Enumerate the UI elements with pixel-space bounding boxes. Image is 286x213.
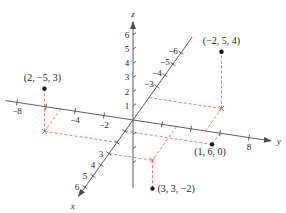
point-label: (2, −5, 3) — [24, 72, 61, 84]
x-tick-label: −3 — [144, 79, 154, 89]
point-marker — [150, 186, 154, 190]
y-tick-label: −4 — [70, 115, 80, 125]
x-tick — [155, 85, 160, 88]
guide-y-to-foot — [153, 127, 177, 161]
x-tick-label: −6 — [168, 46, 178, 56]
y-axis — [5, 101, 270, 141]
guide-y-to-foot — [45, 109, 61, 131]
y-tick-label: 8 — [247, 142, 252, 152]
tick-labels: −6−5−4−33456−8−4−28123456xyz — [12, 9, 281, 211]
guide-x-to-point — [125, 131, 212, 144]
x-tick — [179, 51, 184, 54]
point-marker — [42, 87, 46, 91]
y-axis-label: y — [276, 136, 281, 146]
3d-axes-plot: −6−5−4−33456−8−4−28123456xyz (2, −5, 3)(… — [0, 0, 286, 213]
y-tick — [46, 104, 47, 110]
y-tick — [104, 113, 105, 119]
x-tick — [99, 163, 104, 166]
y-tick-label: −2 — [99, 120, 109, 130]
z-tick-label: 2 — [125, 87, 130, 97]
x-tick-label: 6 — [75, 182, 80, 192]
x-tick — [91, 174, 96, 177]
x-tick-label: 3 — [99, 149, 104, 159]
z-axis-label: z — [130, 9, 135, 19]
guide-x-to-foot — [149, 98, 222, 109]
guide-x-to-foot — [45, 131, 118, 142]
y-tick — [75, 108, 76, 114]
guide-x-to-foot — [109, 154, 153, 161]
z-tick-label: 6 — [125, 30, 130, 40]
z-tick-label: 1 — [125, 101, 130, 111]
x-tick-label: 5 — [83, 171, 88, 181]
x-tick — [171, 62, 176, 65]
z-tick-label: 3 — [125, 72, 130, 82]
x-tick — [163, 74, 168, 77]
y-tick — [162, 121, 163, 127]
point-label: (−2, 5, 4) — [203, 35, 240, 47]
axes-group — [5, 22, 270, 196]
y-tick — [17, 99, 18, 105]
y-tick-label: −8 — [12, 106, 22, 116]
x-tick-label: 4 — [91, 160, 96, 170]
z-tick-label: 5 — [125, 44, 130, 54]
x-tick — [83, 186, 88, 189]
y-tick — [249, 135, 250, 141]
x-tick-label: −5 — [160, 57, 170, 67]
x-axis — [79, 37, 193, 196]
point-marker — [219, 50, 223, 54]
z-tick-label: 4 — [125, 58, 130, 68]
point-label: (1, 6, 0) — [194, 146, 226, 158]
coordinate-diagram: −6−5−4−33456−8−4−28123456xyz (2, −5, 3)(… — [0, 0, 286, 213]
point-label: (3, 3, −2) — [158, 183, 195, 195]
guide-y-to-foot — [206, 109, 222, 131]
x-tick-label: −4 — [152, 68, 162, 78]
y-tick — [191, 126, 192, 132]
y-tick — [220, 130, 221, 136]
x-axis-label: x — [70, 201, 75, 211]
